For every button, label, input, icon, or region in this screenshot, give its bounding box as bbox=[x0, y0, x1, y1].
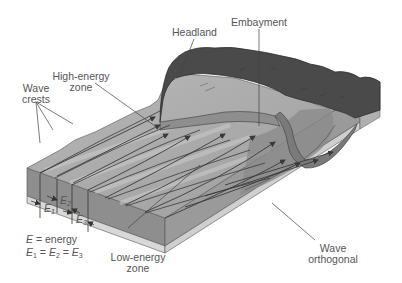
label-low-energy-zone: Low-energy zone bbox=[108, 252, 168, 274]
wave-refraction-diagram: Headland Embayment High-energy zone Wave… bbox=[0, 0, 402, 283]
legend-eq-e2: E bbox=[49, 246, 56, 258]
mark-e3-sub: 3 bbox=[83, 219, 87, 226]
legend-e-symbol: E bbox=[26, 233, 33, 245]
label-wave-orthogonal-line2: orthogonal bbox=[303, 254, 363, 265]
mark-e3-base: E bbox=[76, 213, 83, 225]
legend-energy-equality: E1 = E2 = E3 bbox=[26, 246, 83, 262]
label-high-energy-line2: zone bbox=[51, 82, 111, 93]
legend-eq-sign2: = bbox=[60, 246, 72, 258]
legend-energy-definition: E = energy bbox=[26, 233, 77, 245]
label-wave-orthogonal: Wave orthogonal bbox=[303, 243, 363, 265]
mark-e2: E2 bbox=[60, 194, 71, 207]
label-wave-crests: Wave crests bbox=[16, 83, 56, 105]
label-low-energy-line2: zone bbox=[108, 263, 168, 274]
label-wave-crests-line2: crests bbox=[16, 94, 56, 105]
label-embayment: Embayment bbox=[231, 17, 287, 28]
label-high-energy-zone: High-energy zone bbox=[51, 71, 111, 93]
legend-eq-sign1: = bbox=[37, 246, 49, 258]
mark-e1-base: E bbox=[44, 202, 51, 214]
mark-e3: E3 bbox=[76, 213, 87, 226]
mark-e2-base: E bbox=[60, 194, 67, 206]
mark-e2-sub: 2 bbox=[67, 200, 71, 207]
legend-eq-e3: E bbox=[72, 246, 79, 258]
legend-eq-sub3: 3 bbox=[79, 252, 83, 259]
legend-e-text: = energy bbox=[33, 233, 77, 245]
label-headland: Headland bbox=[172, 27, 217, 38]
mark-e1: E1 bbox=[44, 202, 55, 215]
mark-e1-sub: 1 bbox=[51, 208, 55, 215]
legend-eq-e1: E bbox=[26, 246, 33, 258]
